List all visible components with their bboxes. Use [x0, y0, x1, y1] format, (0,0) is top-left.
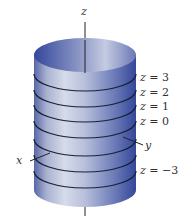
cylinder-side: [34, 55, 136, 207]
y-axis-label: y: [145, 140, 151, 151]
x-axis-label: x: [16, 155, 22, 166]
level-label-z3: z = 3: [140, 72, 169, 83]
level-label-zm3: z = −3: [140, 165, 178, 176]
level-label-z1: z = 1: [140, 101, 169, 112]
z-axis-label: z: [81, 6, 87, 17]
level-label-z2: z = 2: [140, 87, 169, 98]
level-label-z0: z = 0: [140, 116, 169, 127]
